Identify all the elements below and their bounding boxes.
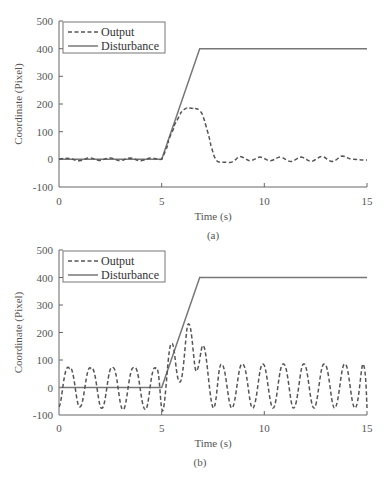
y-tick-label: 200 [37,327,54,339]
x-axis-b: 0 5 10 15 Time (s) (b) [56,411,373,469]
legend-disturbance-label: Disturbance [101,268,159,282]
panel-label-a: (a) [207,229,220,242]
legend-output-label: Output [101,254,135,268]
legend-output-label: Output [101,25,135,39]
y-tick-label: 0 [48,153,54,165]
y-tick-label: 300 [37,299,54,311]
panel-label-b: (b) [194,456,207,469]
x-tick-label: 10 [259,195,271,207]
y-tick-label: 400 [37,43,54,55]
disturbance-line-a [59,49,367,160]
y-tick-label: -100 [33,409,54,421]
x-axis-title: Time (s) [194,210,232,223]
output-line-a [59,108,367,163]
figure: 500 400 300 200 100 0 -100 Coordinate (P… [0,0,392,484]
x-axis-a: 0 5 10 15 Time (s) (a) [56,183,373,242]
x-tick-label: 15 [362,422,374,434]
x-axis-title: Time (s) [194,437,232,450]
y-tick-label: 400 [37,272,54,284]
y-tick-label: 200 [37,98,54,110]
y-axis-title: Coordinate (Pixel) [12,291,25,373]
x-tick-label: 5 [159,422,165,434]
legend-b: Output Disturbance [63,251,165,282]
y-tick-label: 100 [37,354,54,366]
y-axis-title: Coordinate (Pixel) [12,63,25,145]
y-tick-label: 300 [37,70,54,82]
y-tick-label: 500 [37,244,54,256]
y-axis-b: 500 400 300 200 100 0 -100 Coordinate (P… [12,244,63,421]
y-tick-label: 100 [37,126,54,138]
x-tick-label: 15 [362,195,374,207]
legend-disturbance-label: Disturbance [101,39,159,53]
y-tick-label: -100 [33,181,54,193]
chart-a: 500 400 300 200 100 0 -100 Coordinate (P… [12,15,373,242]
x-tick-label: 10 [259,422,271,434]
y-tick-label: 0 [48,382,54,394]
x-tick-label: 0 [56,422,62,434]
chart-b: 500 400 300 200 100 0 -100 Coordinate (P… [12,244,373,469]
x-tick-label: 5 [159,195,165,207]
legend-a: Output Disturbance [63,22,165,53]
x-tick-label: 0 [56,195,62,207]
y-axis-a: 500 400 300 200 100 0 -100 Coordinate (P… [12,15,63,193]
y-tick-label: 500 [37,15,54,27]
output-line-b [59,324,367,411]
